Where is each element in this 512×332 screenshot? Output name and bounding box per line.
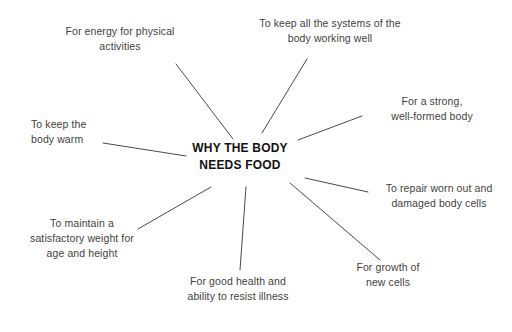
connector-line-warm — [103, 143, 186, 156]
connector-line-weight — [138, 187, 211, 229]
spider-diagram: WHY THE BODY NEEDS FOOD For energy for p… — [0, 0, 512, 332]
connector-line-systems — [262, 59, 307, 133]
node-label-warm: To keep the body warm — [31, 117, 111, 147]
node-label-systems: To keep all the systems of the body work… — [248, 16, 412, 46]
center-node-title: WHY THE BODY NEEDS FOOD — [178, 140, 302, 174]
node-label-good-health: For good health and ability to resist il… — [172, 274, 304, 304]
node-label-weight: To maintain a satisfactory weight for ag… — [18, 216, 146, 261]
connector-line-strong — [298, 116, 362, 140]
connector-line-energy — [176, 64, 233, 139]
connector-line-growth — [290, 183, 380, 260]
node-label-energy: For energy for physical activities — [47, 24, 193, 54]
node-label-strong: For a strong, well-formed body — [370, 94, 494, 124]
node-label-repair: To repair worn out and damaged body cell… — [370, 181, 508, 211]
connector-line-repair — [305, 178, 368, 192]
node-label-growth: For growth of new cells — [336, 260, 440, 290]
connector-line-goodhealth — [240, 187, 246, 270]
